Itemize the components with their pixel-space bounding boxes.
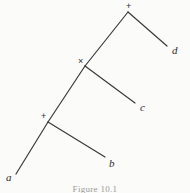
tree-branch-mid-to-low: [48, 66, 85, 122]
node-mark-internal-mid: ×: [78, 57, 83, 66]
leaf-label-a: a: [6, 172, 12, 183]
figure-caption: Figure 10.1: [0, 184, 190, 193]
tree-branch-low-to-b: [48, 122, 105, 157]
phylogenetic-tree-diagram: [0, 0, 190, 193]
node-mark-root: +: [126, 2, 131, 11]
tree-branch-root-to-d: [128, 12, 167, 46]
tree-branch-mid-to-c: [85, 66, 135, 103]
tree-branch-low-to-a: [16, 122, 48, 174]
leaf-label-c: c: [140, 102, 145, 113]
figure-container: +×+abcd Figure 10.1: [0, 0, 190, 193]
node-mark-internal-low: +: [41, 112, 46, 121]
leaf-label-b: b: [109, 158, 115, 169]
leaf-label-d: d: [172, 45, 178, 56]
tree-branch-root-to-mid: [85, 12, 128, 66]
